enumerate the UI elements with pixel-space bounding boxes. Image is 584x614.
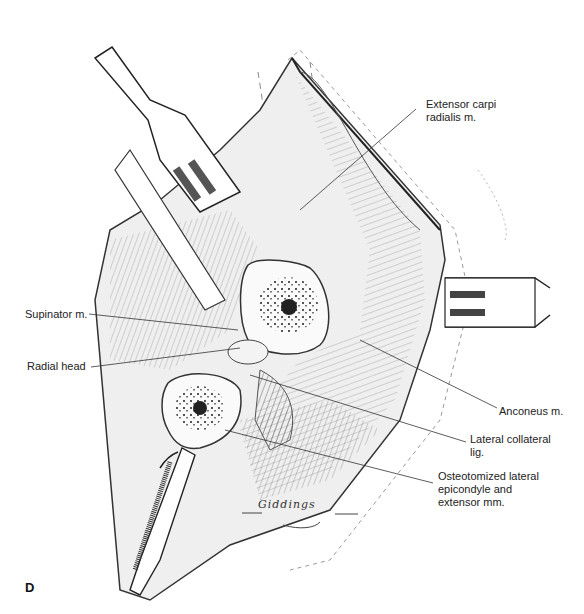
panel-letter: D [25,580,34,595]
label-radial-head: Radial head [27,360,86,373]
label-lateral-collateral: Lateral collateral lig. [470,433,551,459]
humerus-cross-section [241,260,329,354]
illustration-art [0,0,584,614]
surgical-illustration: Extensor carpi radialis m. Supinator m. … [0,0,584,614]
label-supinator: Supinator m. [25,308,87,321]
label-anconeus: Anconeus m. [499,405,563,418]
label-osteotomized: Osteotomized lateral epicondyle and exte… [438,470,539,509]
artist-signature: Giddings [258,498,316,511]
right-retractor [445,278,550,327]
label-extensor-carpi-radialis: Extensor carpi radialis m. [426,98,496,124]
